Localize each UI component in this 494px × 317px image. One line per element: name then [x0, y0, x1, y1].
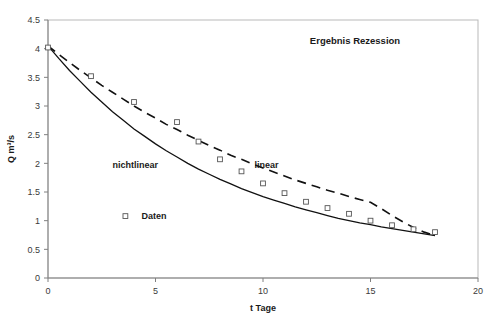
- y-tick-label: 4.5: [27, 15, 40, 25]
- data-point-marker: [196, 139, 201, 144]
- y-tick-label: 0.5: [27, 245, 40, 255]
- chart-title: Ergebnis Rezession: [310, 35, 400, 46]
- series-annotation-label: nichtlinear: [113, 160, 159, 170]
- x-tick-label: 20: [473, 286, 483, 296]
- series-line-linear: [48, 46, 435, 236]
- data-point-marker: [411, 227, 416, 232]
- data-point-marker: [46, 45, 51, 50]
- data-point-marker: [368, 218, 373, 223]
- x-axis-title: t Tage: [250, 303, 276, 313]
- plot-border-group: [48, 20, 478, 278]
- x-axis-ticks: 05101520: [45, 278, 483, 296]
- legend-layer: Daten: [123, 211, 166, 221]
- data-point-marker: [175, 120, 180, 125]
- data-series-layer: [48, 46, 435, 236]
- legend-label: Daten: [141, 211, 166, 221]
- y-tick-label: 4: [35, 44, 40, 54]
- data-point-marker: [390, 223, 395, 228]
- y-axis-title: Q m³/s: [6, 135, 16, 163]
- y-tick-label: 3.5: [27, 73, 40, 83]
- y-tick-label: 1: [35, 216, 40, 226]
- series-annotation-label: linear: [254, 160, 279, 170]
- data-point-marker: [239, 169, 244, 174]
- y-tick-label: 3: [35, 101, 40, 111]
- legend-marker-icon: [123, 214, 128, 219]
- x-tick-label: 15: [365, 286, 375, 296]
- data-point-marker: [282, 191, 287, 196]
- data-point-marker: [89, 74, 94, 79]
- axis-lines: [48, 20, 478, 278]
- data-point-marker: [433, 230, 438, 235]
- data-point-marker: [304, 199, 309, 204]
- x-tick-label: 5: [153, 286, 158, 296]
- y-tick-label: 2: [35, 159, 40, 169]
- x-tick-label: 10: [258, 286, 268, 296]
- chart-figure: 00.511.522.533.544.5 05101520 nichtlinea…: [0, 0, 494, 317]
- y-tick-label: 2.5: [27, 130, 40, 140]
- y-tick-label: 1.5: [27, 187, 40, 197]
- data-point-marker: [261, 181, 266, 186]
- chart-canvas: 00.511.522.533.544.5 05101520 nichtlinea…: [0, 0, 494, 317]
- data-point-marker: [132, 100, 137, 105]
- y-axis-ticks: 00.511.522.533.544.5: [27, 15, 48, 283]
- x-tick-label: 0: [45, 286, 50, 296]
- data-point-marker: [218, 157, 223, 162]
- data-point-marker: [325, 206, 330, 211]
- plot-border: [48, 20, 478, 278]
- data-markers-layer: [46, 45, 438, 234]
- data-point-marker: [347, 211, 352, 216]
- y-tick-label: 0: [35, 273, 40, 283]
- annotations-layer: nichtlinearlinear: [113, 160, 279, 170]
- series-line-nichtlinear: [48, 46, 435, 236]
